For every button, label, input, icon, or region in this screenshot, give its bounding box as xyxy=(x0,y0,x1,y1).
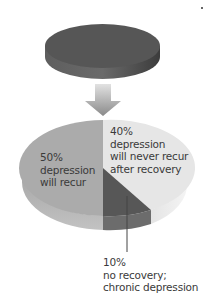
label-recur-line2: will recur xyxy=(40,176,95,189)
label-chronic-line1: no recovery; xyxy=(103,269,198,282)
corner-mark xyxy=(201,7,203,9)
down-arrow-icon xyxy=(85,84,121,116)
label-chronic: 10% no recovery; chronic depression xyxy=(103,256,198,294)
label-recur-pct: 50% xyxy=(40,151,95,164)
label-never-line2: will never recur xyxy=(110,150,188,163)
top-disc xyxy=(45,24,160,79)
label-never-recur: 40% depression will never recur after re… xyxy=(110,125,188,175)
chart-figure: 50% depression will recur 40% depression… xyxy=(0,0,205,308)
label-recur: 50% depression will recur xyxy=(40,151,95,189)
label-never-pct: 40% xyxy=(110,125,188,138)
label-chronic-line2: chronic depression xyxy=(103,281,198,294)
label-recur-line1: depression xyxy=(40,164,95,177)
label-chronic-pct: 10% xyxy=(103,256,198,269)
label-never-line3: after recovery xyxy=(110,163,188,176)
label-never-line1: depression xyxy=(110,138,188,151)
